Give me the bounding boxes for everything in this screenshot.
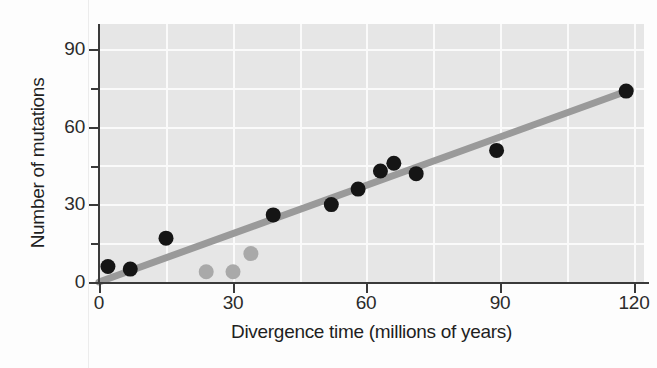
y-axis-tick-minor [91, 166, 99, 168]
x-axis-label-90: 90 [475, 292, 525, 314]
y-axis-tick-minor [91, 88, 99, 90]
y-axis-tick-major [89, 49, 99, 51]
x-axis-label-30: 30 [208, 292, 258, 314]
data-point-marker [351, 182, 366, 197]
data-layer [99, 24, 644, 282]
data-point-marker [373, 164, 388, 179]
y-axis-tick-minor [91, 243, 99, 245]
data-point-marker [159, 231, 174, 246]
y-axis-line [98, 24, 100, 284]
plot-area [99, 24, 644, 282]
scatter-plot-figure: 90 60 30 0 0 30 60 90 120 Divergence tim… [0, 0, 657, 368]
x-axis-label-0: 0 [74, 292, 124, 314]
data-point-marker [409, 166, 424, 181]
data-point-marker [226, 264, 241, 279]
y-axis-tick-major [89, 282, 99, 284]
y-axis-tick-major [89, 204, 99, 206]
data-point-marker [489, 143, 504, 158]
data-point-marker [619, 84, 634, 99]
data-point-marker [100, 259, 115, 274]
data-point-marker [243, 246, 258, 261]
y-axis-tick-major [89, 127, 99, 129]
x-axis-label-60: 60 [341, 292, 391, 314]
y-axis-title: Number of mutations [27, 33, 49, 293]
data-point-marker [199, 264, 214, 279]
data-point-marker [324, 197, 339, 212]
x-axis-label-120: 120 [609, 292, 657, 314]
x-axis-title: Divergence time (millions of years) [99, 321, 644, 343]
x-axis-line [98, 282, 649, 284]
data-point-marker [386, 156, 401, 171]
data-point-marker [123, 262, 138, 277]
data-point-marker [266, 207, 281, 222]
